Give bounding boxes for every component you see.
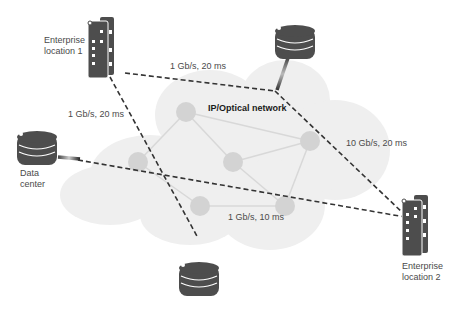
link-label-e1-top: 1 Gb/s, 20 ms: [170, 61, 226, 72]
label-line: location 2: [402, 272, 443, 283]
link-label-dc-e2: 1 Gb/s, 10 ms: [228, 212, 284, 223]
node: [190, 196, 210, 216]
stub-datacenter: [58, 157, 80, 159]
datacenter-label: Data center: [20, 168, 45, 190]
node: [300, 131, 320, 151]
link-label-top-e2: 10 Gb/s, 20 ms: [346, 138, 407, 149]
enterprise-1-label: Enterprise location 1: [44, 35, 85, 57]
label-line: center: [20, 179, 45, 190]
node: [176, 102, 196, 122]
building-icon: [88, 17, 114, 78]
network-title: IP/Optical network: [208, 103, 287, 114]
cloud-shape: [60, 60, 390, 250]
node: [128, 152, 148, 172]
label-line: Enterprise: [44, 35, 85, 46]
label-line: location 1: [44, 46, 85, 57]
database-icon: [17, 131, 57, 165]
label-line: Enterprise: [402, 261, 443, 272]
database-icon: [275, 25, 315, 59]
label-line: Data: [20, 168, 45, 179]
database-icon: [179, 262, 219, 296]
building-icon: [402, 195, 428, 256]
enterprise-2-label: Enterprise location 2: [402, 261, 443, 283]
node: [223, 152, 243, 172]
link-label-e1-bottom: 1 Gb/s, 20 ms: [68, 109, 124, 120]
